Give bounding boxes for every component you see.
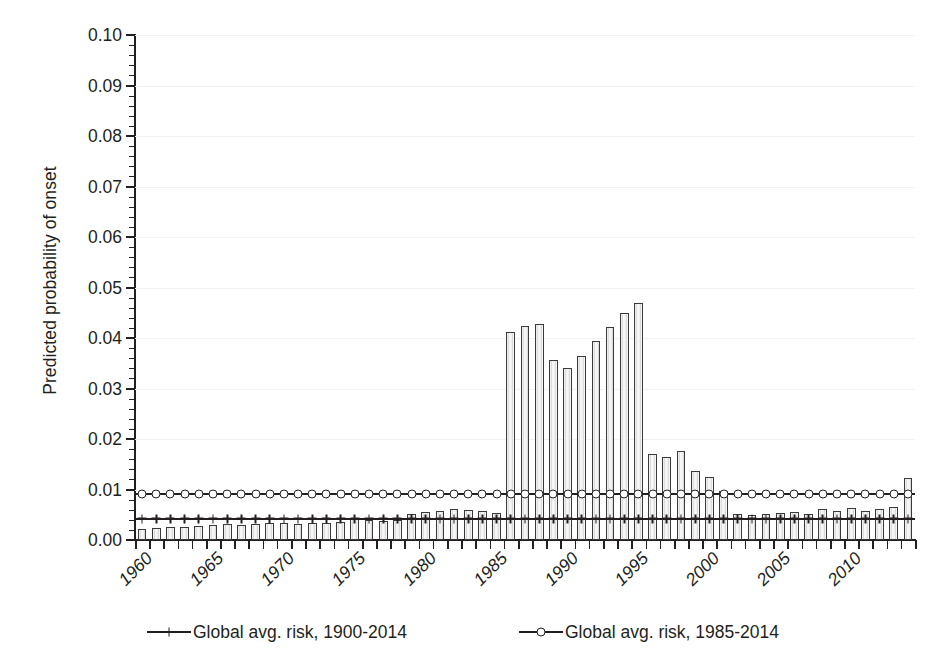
x-tick: [589, 540, 591, 549]
x-tick: [787, 540, 789, 549]
circle-marker: [294, 490, 303, 499]
circle-marker: [648, 490, 657, 499]
circle-marker: [875, 490, 884, 499]
legend-item[interactable]: Global avg. risk, 1900-2014: [147, 622, 407, 643]
x-tick: [277, 540, 279, 549]
circle-marker: [776, 490, 785, 499]
y-axis-tick-labels: 0.000.010.020.030.040.050.060.070.080.09…: [46, 0, 122, 560]
circle-marker: [847, 490, 856, 499]
y-tick-label: 0.00: [50, 530, 122, 551]
circle-marker: [350, 490, 359, 499]
x-tick: [702, 540, 704, 549]
x-tick: [603, 540, 605, 549]
circle-marker: [634, 490, 643, 499]
chart-figure: Predicted probability of onset 0.000.010…: [0, 0, 926, 669]
y-tick-label: 0.08: [50, 126, 122, 147]
x-tick: [546, 540, 548, 549]
circle-marker: [818, 490, 827, 499]
x-tick: [844, 540, 846, 549]
circle-marker: [705, 490, 714, 499]
y-major-tick: [126, 337, 135, 339]
y-tick-label: 0.06: [50, 227, 122, 248]
circle-marker: [889, 490, 898, 499]
x-tick: [532, 540, 534, 549]
x-tick: [631, 540, 633, 549]
circle-marker: [223, 490, 232, 499]
x-tick: [646, 540, 648, 549]
x-tick: [376, 540, 378, 549]
x-tick: [802, 540, 804, 549]
x-tick: [660, 540, 662, 549]
circle-marker: [322, 490, 331, 499]
circle-marker: [450, 490, 459, 499]
x-tick: [745, 540, 747, 549]
circle-marker: [833, 490, 842, 499]
circle-marker: [152, 490, 161, 499]
circle-marker: [379, 490, 388, 499]
x-tick: [773, 540, 775, 549]
x-tick: [334, 540, 336, 549]
x-tick: [759, 540, 761, 549]
circle-marker: [563, 490, 572, 499]
x-tick: [234, 540, 236, 549]
circle-marker: [251, 490, 260, 499]
circle-marker: [393, 490, 402, 499]
chart-legend: Global avg. risk, 1900-2014Global avg. r…: [0, 612, 926, 652]
x-tick: [419, 540, 421, 549]
x-tick: [362, 540, 364, 549]
x-tick: [475, 540, 477, 549]
x-tick: [263, 540, 265, 549]
circle-marker: [464, 490, 473, 499]
plot-area: [135, 35, 915, 540]
circle-marker: [237, 490, 246, 499]
y-tick-label: 0.05: [50, 277, 122, 298]
y-major-tick: [126, 135, 135, 137]
y-major-tick: [126, 85, 135, 87]
x-tick: [447, 540, 449, 549]
circle-marker: [620, 490, 629, 499]
x-tick: [192, 540, 194, 549]
circle-marker: [421, 490, 430, 499]
circle-marker: [194, 490, 203, 499]
x-tick: [291, 540, 293, 549]
x-tick: [490, 540, 492, 549]
x-tick: [617, 540, 619, 549]
circle-marker: [336, 490, 345, 499]
y-major-tick: [126, 236, 135, 238]
x-tick: [518, 540, 520, 549]
circle-marker: [478, 490, 487, 499]
circle-marker: [804, 490, 813, 499]
circle-marker: [747, 490, 756, 499]
x-tick: [248, 540, 250, 549]
x-tick: [816, 540, 818, 549]
legend-item[interactable]: Global avg. risk, 1985-2014: [519, 622, 779, 643]
x-tick: [688, 540, 690, 549]
circle-marker: [138, 490, 147, 499]
x-tick: [206, 540, 208, 549]
x-tick: [915, 540, 917, 549]
x-tick: [433, 540, 435, 549]
legend-swatch: [147, 625, 191, 639]
y-major-tick: [126, 438, 135, 440]
circle-marker: [180, 490, 189, 499]
y-major-tick: [126, 186, 135, 188]
x-tick: [887, 540, 889, 549]
legend-label: Global avg. risk, 1900-2014: [193, 622, 407, 643]
x-tick: [674, 540, 676, 549]
circle-marker: [492, 490, 501, 499]
x-tick: [220, 540, 222, 549]
x-tick: [830, 540, 832, 549]
y-tick-label: 0.04: [50, 328, 122, 349]
circle-marker: [903, 490, 912, 499]
circle-marker: [591, 490, 600, 499]
x-tick: [575, 540, 577, 549]
x-tick: [716, 540, 718, 549]
x-tick: [305, 540, 307, 549]
x-tick: [504, 540, 506, 549]
circle-marker: [535, 490, 544, 499]
circle-marker: [733, 490, 742, 499]
x-tick: [390, 540, 392, 549]
circle-marker: [209, 490, 218, 499]
circle-marker: [719, 490, 728, 499]
y-tick-label: 0.09: [50, 75, 122, 96]
